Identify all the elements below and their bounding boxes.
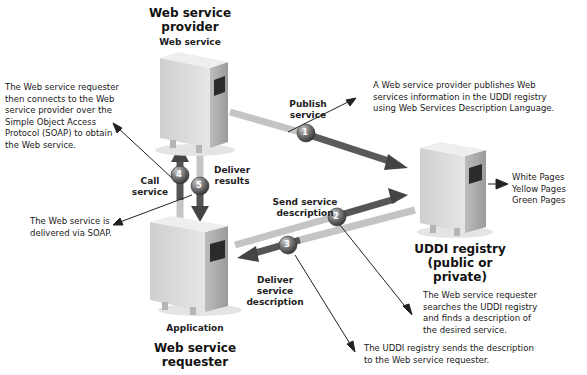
- yellow-pages: Yellow Pages: [512, 184, 566, 196]
- note-line: The Web service is: [30, 216, 112, 228]
- step-3-label-line2: service: [240, 286, 310, 297]
- note-send: The UDDI registry sends the description …: [364, 343, 534, 366]
- step-4-label-line1: Call: [125, 176, 175, 187]
- note-line: The UDDI registry sends the description: [364, 343, 534, 355]
- registry-server-icon: [417, 142, 493, 238]
- note-line: and finds a description of: [423, 313, 537, 325]
- step-5-label-line2: results: [207, 176, 257, 187]
- note-line: Protocol (SOAP) to obtain: [5, 128, 119, 140]
- note-line: Simple Object Access: [5, 117, 119, 129]
- note-line: searches the UDDI registry: [423, 302, 537, 314]
- provider-server-icon: [155, 52, 235, 156]
- step-5-label: Deliver results: [207, 165, 257, 187]
- step-5-label-line1: Deliver: [207, 165, 257, 176]
- registry-title-line1: UDDI registry: [400, 242, 520, 256]
- note-connect: The Web service requester then connects …: [5, 82, 119, 151]
- note-line: service provider over the: [5, 105, 119, 117]
- note-line: The Web service requester: [5, 82, 119, 94]
- requester-title: Web service requester: [135, 341, 255, 369]
- note-line: delivered via SOAP.: [30, 228, 112, 240]
- note-line: using Web Services Description Language.: [373, 103, 554, 115]
- step-2-label-line1: Send service: [260, 197, 350, 208]
- white-pages: White Pages: [512, 172, 566, 184]
- step-3-number: 3: [284, 239, 290, 251]
- note-line: The Web service requester: [423, 290, 537, 302]
- note-line: services information in the UDDI registr…: [373, 92, 554, 104]
- green-pages: Green Pages: [512, 195, 566, 207]
- step-1-number: 1: [302, 127, 308, 139]
- step-1-label-line1: Publish: [283, 99, 333, 110]
- step-1-label: Publish service: [283, 99, 333, 121]
- provider-title-line2: provider: [130, 20, 250, 34]
- step-4-number: 4: [176, 169, 182, 181]
- note-line: the desired service.: [423, 325, 537, 337]
- note-delivered: The Web service is delivered via SOAP.: [30, 216, 112, 239]
- step-2-label-line2: description: [260, 208, 350, 219]
- step-4-label-line2: service: [125, 187, 175, 198]
- note-line: A Web service provider publishes Web: [373, 80, 554, 92]
- step-3-label-line1: Deliver: [240, 275, 310, 286]
- requester-title-line1: Web service: [135, 341, 255, 355]
- note-publish: A Web service provider publishes Web ser…: [373, 80, 554, 115]
- requester-title-line2: requester: [135, 355, 255, 369]
- registry-title: UDDI registry (public or private): [400, 242, 520, 284]
- note-line: then connects to the Web: [5, 94, 119, 106]
- requester-server-icon: [150, 216, 242, 316]
- registry-title-line2: (public or private): [400, 256, 520, 284]
- requester-subtitle: Application: [145, 323, 245, 333]
- step-4-label: Call service: [125, 176, 175, 198]
- step-3-label: Deliver service description: [240, 275, 310, 308]
- step-3-label-line3: description: [240, 297, 310, 308]
- provider-title: Web service provider: [130, 6, 250, 34]
- registry-pages-list: White Pages Yellow Pages Green Pages: [512, 172, 566, 207]
- note-search: The Web service requester searches the U…: [423, 290, 537, 336]
- step-5-number: 5: [196, 180, 202, 192]
- step-1-label-line2: service: [283, 110, 333, 121]
- provider-title-line1: Web service: [130, 6, 250, 20]
- provider-subtitle: Web service: [140, 37, 240, 47]
- note-line: to the Web service requester.: [364, 355, 534, 367]
- step-2-label: Send service description: [260, 197, 350, 219]
- note-line: the Web service.: [5, 140, 119, 152]
